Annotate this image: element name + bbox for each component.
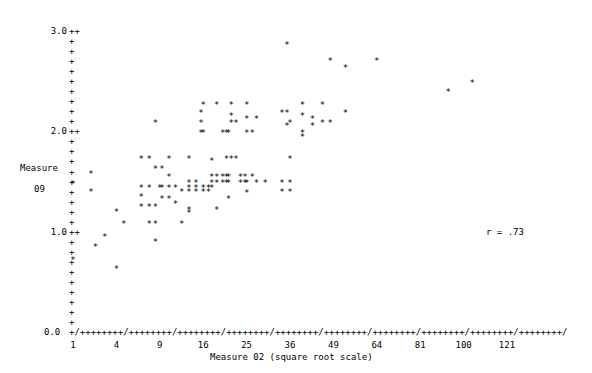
- data-point-marker: *: [244, 101, 249, 110]
- data-point-marker: *: [198, 119, 203, 128]
- data-point-marker: *: [320, 119, 325, 128]
- data-point-marker: *: [166, 172, 171, 181]
- data-point-marker: *: [320, 101, 325, 110]
- data-point-marker: *: [70, 255, 75, 264]
- data-point-marker: *: [173, 199, 178, 208]
- data-point-marker: *: [159, 183, 164, 192]
- data-point-marker: *: [300, 112, 305, 121]
- data-point-marker: *: [300, 133, 305, 142]
- data-point-marker: *: [147, 219, 152, 228]
- data-point-marker: *: [310, 122, 315, 131]
- data-point-marker: *: [153, 164, 158, 173]
- data-point-marker: *: [229, 101, 234, 110]
- data-point-marker: *: [166, 183, 171, 192]
- data-point-marker: *: [166, 155, 171, 164]
- scatter-plot-figure: Measure 09 +++++++++++1.0+++++++++++2.0+…: [0, 0, 592, 373]
- data-point-marker: *: [198, 109, 203, 118]
- data-point-marker: *: [209, 157, 214, 166]
- data-point-marker: *: [226, 129, 231, 138]
- data-point-marker: *: [214, 101, 219, 110]
- data-point-marker: *: [249, 129, 254, 138]
- data-point-marker: *: [374, 57, 379, 66]
- data-point-marker: *: [186, 208, 191, 217]
- data-point-marker: *: [287, 155, 292, 164]
- data-point-marker: *: [159, 194, 164, 203]
- data-point-marker: *: [233, 155, 238, 164]
- data-point-marker: *: [114, 264, 119, 273]
- data-point-marker: *: [153, 202, 158, 211]
- data-point-marker: *: [226, 178, 231, 187]
- data-point-marker: *: [147, 183, 152, 192]
- data-point-marker: *: [93, 242, 98, 251]
- data-point-marker: *: [244, 115, 249, 124]
- data-point-marker: *: [153, 119, 158, 128]
- data-point-marker: *: [300, 101, 305, 110]
- data-point-marker: *: [233, 119, 238, 128]
- data-point-marker: *: [226, 194, 231, 203]
- data-point-marker: *: [287, 119, 292, 128]
- data-point-marker: *: [166, 194, 171, 203]
- data-point-marker: *: [147, 202, 152, 211]
- data-point-marker: *: [254, 115, 259, 124]
- data-point-marker: *: [121, 219, 126, 228]
- data-point-marker: *: [284, 109, 289, 118]
- data-point-marker: *: [88, 169, 93, 178]
- data-point-marker: *: [343, 109, 348, 118]
- data-point-marker: *: [214, 178, 219, 187]
- data-point-marker: *: [284, 41, 289, 50]
- data-point-marker: *: [263, 178, 268, 187]
- data-point-marker: *: [254, 178, 259, 187]
- data-point-marker: *: [114, 207, 119, 216]
- data-point-marker: *: [343, 64, 348, 73]
- data-point-marker: *: [214, 205, 219, 214]
- data-point-marker: *: [328, 119, 333, 128]
- data-point-marker: *: [186, 155, 191, 164]
- data-point-marker: *: [279, 187, 284, 196]
- data-point-marker: *: [153, 219, 158, 228]
- data-point-marker: *: [138, 202, 143, 211]
- data-point-marker: *: [179, 219, 184, 228]
- data-point-marker: *: [469, 79, 474, 88]
- data-point-marker: *: [102, 232, 107, 241]
- data-point-marker: *: [173, 183, 178, 192]
- data-point-marker: *: [147, 155, 152, 164]
- data-point-marker: *: [445, 88, 450, 97]
- data-point-marker: *: [88, 187, 93, 196]
- data-point-marker: *: [193, 187, 198, 196]
- data-point-marker: *: [328, 57, 333, 66]
- data-point-marker: *: [70, 179, 75, 188]
- data-point-marker: *: [186, 187, 191, 196]
- data-points-layer: ****************************************…: [0, 0, 592, 373]
- data-point-marker: *: [153, 237, 158, 246]
- data-point-marker: *: [159, 164, 164, 173]
- data-point-marker: *: [287, 187, 292, 196]
- data-point-marker: *: [179, 187, 184, 196]
- data-point-marker: *: [244, 188, 249, 197]
- data-point-marker: *: [200, 101, 205, 110]
- data-point-marker: *: [138, 192, 143, 201]
- data-point-marker: *: [200, 129, 205, 138]
- data-point-marker: *: [138, 155, 143, 164]
